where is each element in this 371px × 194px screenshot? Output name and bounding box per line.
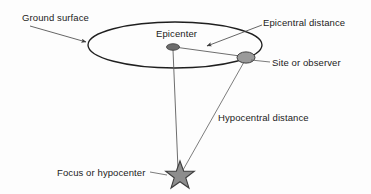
label-hypocentral-distance: Hypocentral distance [218,112,309,123]
ground-surface-leader-line [30,26,86,42]
earthquake-geometry-diagram: Ground surface Epicenter Epicentral dist… [0,0,371,194]
hypocenter-star-marker [166,161,195,188]
site-leader-line [251,60,270,62]
epicentral-distance-line [178,48,240,57]
label-focus-or-hypocenter: Focus or hypocenter [57,167,146,178]
label-site-or-observer: Site or observer [272,57,341,68]
label-epicenter: Epicenter [156,28,197,39]
label-ground-surface: Ground surface [22,12,89,23]
focus-leader-line [150,172,167,175]
epicenter-marker [167,44,180,51]
label-epicentral-distance: Epicentral distance [263,17,345,28]
site-marker [237,52,255,63]
